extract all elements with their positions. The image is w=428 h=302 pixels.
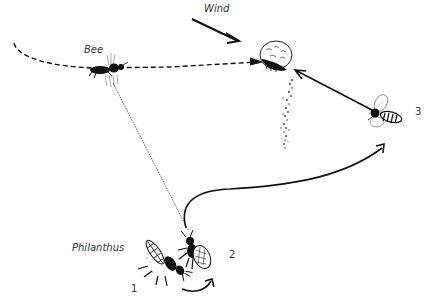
wasp-stage-1-icon [138, 230, 194, 288]
wasp-flight-path [184, 148, 382, 228]
bee-flight-path [14, 43, 258, 68]
approach-arrow-icon [295, 70, 372, 110]
philanthus-label: Philanthus [72, 242, 124, 253]
flower-icon [260, 41, 292, 72]
stage-1-number: 1 [131, 283, 137, 294]
sight-line [113, 83, 188, 230]
bee-icon [89, 53, 128, 87]
wasp-stage-2-icon [178, 230, 214, 271]
stage-3-number: 3 [415, 106, 421, 117]
turn-arrow [182, 281, 211, 291]
scent-plume [280, 79, 293, 149]
philanthus-hunting-diagram [0, 0, 428, 302]
wind-label: Wind [204, 3, 229, 14]
wind-arrow-icon [192, 19, 239, 43]
stage-2-number: 2 [229, 249, 235, 260]
wasp-stage-3-icon [367, 92, 403, 127]
bee-label: Bee [84, 44, 103, 55]
